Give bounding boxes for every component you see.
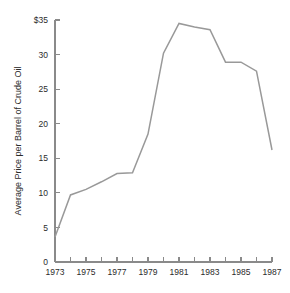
x-tick-label: 1983: [201, 267, 220, 277]
y-tick-label: 15: [39, 153, 49, 163]
chart-canvas: 051015202530$35 197319751977197919811983…: [0, 0, 290, 293]
x-tick-label: 1987: [263, 267, 282, 277]
y-tick-label: 30: [39, 50, 49, 60]
y-tick-label: 5: [43, 223, 48, 233]
y-tick-label: 25: [39, 84, 49, 94]
y-tick-label: 20: [39, 119, 49, 129]
y-axis-title: Average Price per Barrel of Crude Oil: [13, 67, 23, 216]
crude-oil-price-chart: 051015202530$35 197319751977197919811983…: [0, 0, 290, 293]
y-tick-label: 10: [39, 188, 49, 198]
x-axis-tick-labels: 19731975197719791981198319851987: [46, 267, 282, 277]
x-tick-label: 1981: [170, 267, 189, 277]
y-tick-label: 0: [43, 257, 48, 267]
x-tick-label: 1975: [77, 267, 96, 277]
x-tick-label: 1973: [46, 267, 65, 277]
y-axis-tick-labels: 051015202530$35: [34, 15, 48, 267]
x-tick-label: 1979: [139, 267, 158, 277]
price-series-line: [55, 23, 272, 237]
x-tick-label: 1985: [232, 267, 251, 277]
x-axis: [55, 257, 272, 262]
x-tick-label: 1977: [108, 267, 127, 277]
y-tick-label: $35: [34, 15, 48, 25]
